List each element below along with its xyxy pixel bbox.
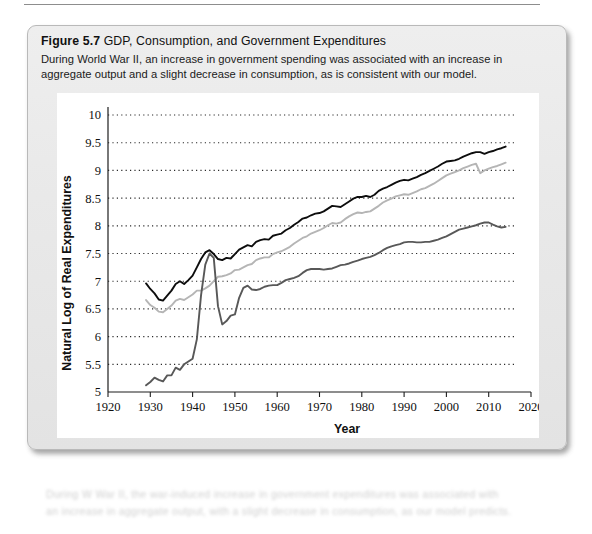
- y-tick-label: 9.5: [85, 136, 101, 150]
- y-tick-label: 9: [95, 164, 101, 178]
- x-axis-title: Year: [334, 422, 360, 436]
- background-text-line-2: an increase in aggregate output, with a …: [46, 503, 516, 520]
- y-tick-label: 6.5: [85, 302, 101, 316]
- series-line: [146, 147, 506, 301]
- figure-title-line: Figure 5.7 GDP, Consumption, and Governm…: [41, 33, 555, 50]
- x-tick-label: 2010: [476, 400, 501, 414]
- figure-number: Figure 5.7: [41, 34, 100, 48]
- figure-caption: Figure 5.7 GDP, Consumption, and Governm…: [41, 33, 555, 81]
- x-tick-label: 1970: [307, 400, 332, 414]
- y-tick-label: 10: [88, 108, 101, 122]
- figure-container: Figure 5.7 GDP, Consumption, and Governm…: [27, 25, 567, 450]
- chart-panel: 55.566.577.588.599.510 19201930194019501…: [57, 93, 539, 438]
- data-series: [146, 147, 506, 386]
- y-tick-label: 8.5: [85, 192, 101, 206]
- background-text-line-1: During W War II, the war-induced increas…: [46, 486, 516, 503]
- y-tick-label: 7.5: [85, 247, 101, 261]
- y-tick-label: 5.5: [85, 358, 101, 372]
- axes: [108, 107, 531, 392]
- x-tick-label: 1990: [392, 400, 417, 414]
- y-axis-title: Natural Log of Real Expenditures: [60, 175, 74, 371]
- gridlines: [108, 115, 517, 364]
- figure-title-text: GDP, Consumption, and Government Expendi…: [104, 34, 386, 48]
- x-tick-label: 1930: [138, 400, 163, 414]
- figure-description: During World War II, an increase in gove…: [41, 52, 555, 81]
- x-tick-label: 2020: [518, 400, 539, 414]
- x-tick-label: 2000: [434, 400, 459, 414]
- y-tick-label: 8: [95, 219, 101, 233]
- series-line: [146, 222, 506, 385]
- line-chart: 55.566.577.588.599.510 19201930194019501…: [57, 93, 539, 438]
- y-tick-label: 6: [95, 330, 101, 344]
- x-tick-label: 1980: [349, 400, 374, 414]
- x-tick-label: 1960: [265, 400, 290, 414]
- background-page-text: During W War II, the war-induced increas…: [46, 486, 516, 522]
- y-axis-tick-labels: 55.566.577.588.599.510: [85, 108, 101, 399]
- x-tick-label: 1940: [180, 400, 205, 414]
- series-line: [146, 163, 506, 313]
- x-tick-label: 1920: [95, 400, 120, 414]
- y-tick-label: 7: [95, 275, 101, 289]
- page-top-rule: [24, 4, 540, 5]
- axis-ticks: [108, 392, 531, 397]
- y-tick-label: 5: [95, 385, 101, 399]
- x-tick-label: 1950: [222, 400, 247, 414]
- x-axis-tick-labels: 1920193019401950196019701980199020002010…: [95, 400, 539, 414]
